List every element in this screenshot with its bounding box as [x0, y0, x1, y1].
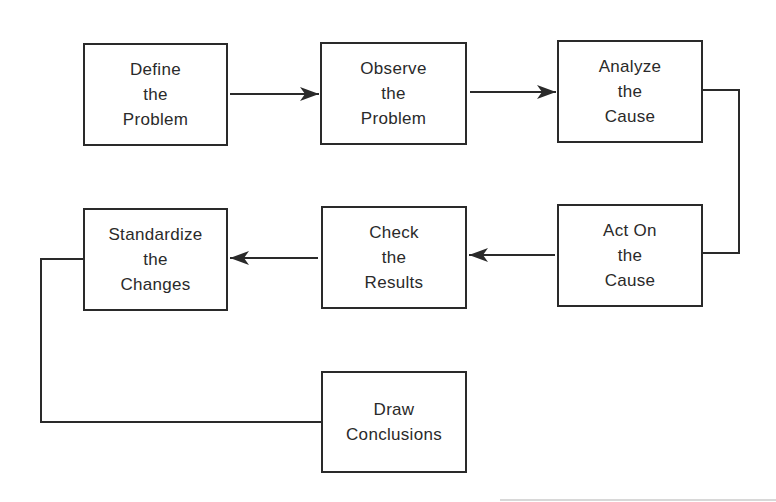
- node-label-line: Analyze: [599, 54, 662, 79]
- page-edge-divider: [500, 499, 776, 501]
- flowchart-canvas: Define the Problem Observe the Problem A…: [0, 0, 776, 502]
- node-label-line: the: [618, 79, 643, 104]
- node-label-line: the: [382, 245, 407, 270]
- node-label-line: Check: [369, 220, 419, 245]
- node-label-line: Standardize: [108, 222, 202, 247]
- node-label-line: Conclusions: [346, 422, 442, 447]
- node-analyze-the-cause: Analyze the Cause: [557, 40, 703, 143]
- node-label-line: Cause: [605, 268, 656, 293]
- node-define-the-problem: Define the Problem: [83, 43, 228, 146]
- node-label-line: the: [143, 247, 168, 272]
- node-act-on-the-cause: Act On the Cause: [557, 204, 703, 307]
- node-label-line: Draw: [374, 397, 415, 422]
- node-label-line: Act On: [603, 218, 657, 243]
- node-label-line: Cause: [605, 104, 656, 129]
- node-label-line: Observe: [360, 56, 426, 81]
- connector-analyze-to-act: [703, 90, 739, 253]
- node-label-line: the: [143, 82, 168, 107]
- node-draw-conclusions: Draw Conclusions: [321, 371, 467, 473]
- node-check-the-results: Check the Results: [321, 206, 467, 309]
- node-label-line: Problem: [123, 107, 188, 132]
- node-label-line: Results: [365, 270, 424, 295]
- node-standardize-the-changes: Standardize the Changes: [83, 208, 228, 311]
- node-observe-the-problem: Observe the Problem: [320, 42, 467, 145]
- node-label-line: Problem: [361, 106, 426, 131]
- node-label-line: the: [381, 81, 406, 106]
- node-label-line: the: [618, 243, 643, 268]
- node-label-line: Changes: [120, 272, 190, 297]
- node-label-line: Define: [130, 57, 181, 82]
